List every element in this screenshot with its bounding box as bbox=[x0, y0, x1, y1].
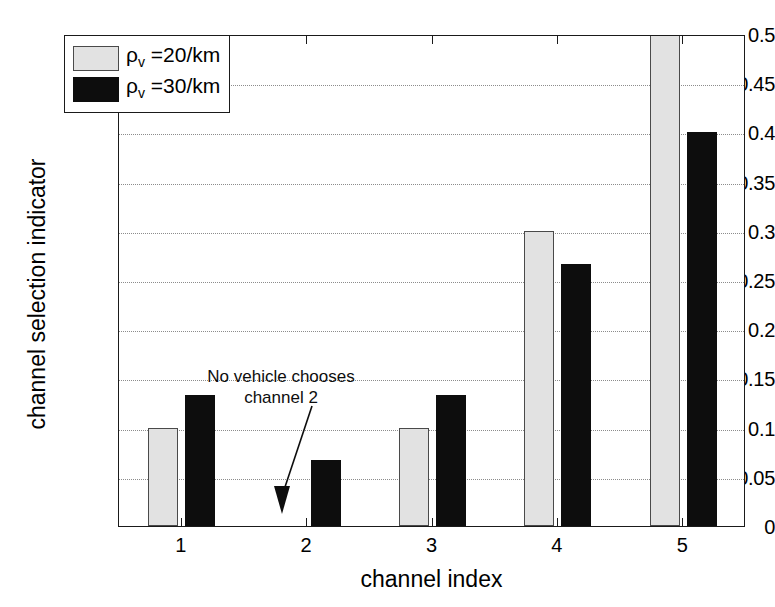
bar-5-series1 bbox=[650, 35, 680, 526]
x-axis-tick-mark-top bbox=[432, 35, 433, 44]
bar-chart-figure: channel selection indicator 00.050.10.15… bbox=[0, 0, 775, 607]
x-axis-tick-mark-top bbox=[682, 35, 683, 44]
bar-5-series2 bbox=[687, 132, 717, 526]
legend-item-rho30: ρv =30/km bbox=[73, 74, 220, 105]
bar-3-series2 bbox=[436, 395, 466, 526]
x-axis-tick-mark-bottom bbox=[682, 518, 683, 527]
bar-4-series1 bbox=[524, 231, 554, 526]
legend-label-rho30: ρv =30/km bbox=[126, 75, 220, 104]
x-axis-tick-mark-bottom bbox=[557, 518, 558, 527]
x-axis-tick-label: 3 bbox=[402, 534, 462, 556]
x-axis-tick-mark-bottom bbox=[306, 518, 307, 527]
x-axis-tick-label: 2 bbox=[276, 534, 336, 556]
legend-swatch-dark bbox=[73, 77, 119, 102]
x-axis-tick-label: 5 bbox=[652, 534, 712, 556]
bar-3-series1 bbox=[399, 428, 429, 526]
x-axis-tick-label: 1 bbox=[151, 534, 211, 556]
x-axis-title: channel index bbox=[118, 566, 745, 592]
x-axis-tick-mark-top bbox=[306, 35, 307, 44]
y-axis-title: channel selection indicator bbox=[24, 48, 50, 540]
legend: ρv =20/km ρv =30/km bbox=[64, 35, 230, 113]
bar-1-series1 bbox=[148, 428, 178, 526]
annotation-arrow-icon bbox=[265, 404, 325, 516]
bar-4-series2 bbox=[561, 264, 591, 526]
x-axis-tick-label: 4 bbox=[527, 534, 587, 556]
annotation-text: No vehicle chooses channel 2 bbox=[186, 366, 376, 408]
bar-1-series2 bbox=[185, 395, 215, 526]
x-axis-tick-mark-bottom bbox=[432, 518, 433, 527]
annotation-line-1: No vehicle chooses bbox=[186, 366, 376, 387]
legend-swatch-light bbox=[73, 46, 119, 71]
legend-label-rho20: ρv =20/km bbox=[126, 44, 220, 73]
x-axis-tick-mark-bottom bbox=[181, 518, 182, 527]
legend-item-rho20: ρv =20/km bbox=[73, 43, 220, 74]
x-axis-tick-mark-top bbox=[557, 35, 558, 44]
